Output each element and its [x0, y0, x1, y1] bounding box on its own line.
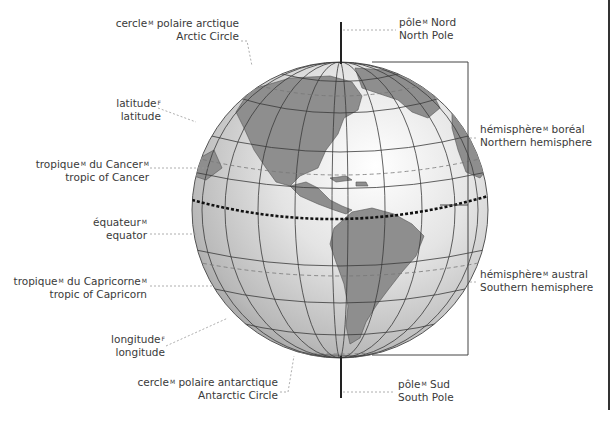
label-fr: hémisphère: [480, 268, 542, 280]
globe-diagram: cercleM polaire arctique Arctic Circle l…: [0, 0, 611, 422]
gender-marker: M: [422, 18, 427, 25]
label-en: Antarctic Circle: [137, 389, 278, 402]
page-border-line: [608, 0, 610, 410]
label-tropic-of-capricorn: tropiqueM du CapricorneM tropic of Capri…: [14, 275, 147, 301]
label-north-pole: pôleM Nord North Pole: [399, 16, 456, 42]
label-fr: cercle: [116, 17, 147, 29]
label-en: Southern hemisphere: [480, 281, 593, 294]
gender-marker: M: [142, 218, 147, 225]
label-southern-hemisphere: hémisphèreM austral Southern hemisphere: [480, 268, 593, 294]
gender-marker: M: [142, 277, 147, 284]
label-en: Arctic Circle: [116, 30, 239, 43]
label-en: equator: [93, 229, 147, 242]
label-fr-rest: Nord: [428, 16, 456, 28]
gender-marker: M: [81, 160, 86, 167]
label-fr-rest: Sud: [427, 378, 450, 390]
label-en: latitude: [116, 110, 161, 123]
label-fr-rest: austral: [548, 268, 588, 280]
label-fr: latitude: [116, 97, 156, 109]
label-antarctic-circle: cercleM polaire antarctique Antarctic Ci…: [137, 376, 278, 402]
label-fr-rest: polaire arctique: [153, 17, 239, 29]
gender-marker: M: [543, 125, 548, 132]
gender-marker: F: [158, 99, 161, 106]
label-fr-mid: du Cancer: [86, 158, 143, 170]
gender-marker: M: [148, 19, 153, 26]
gender-marker: M: [421, 380, 426, 387]
label-fr: hémisphère: [480, 123, 542, 135]
label-fr: longitude: [111, 333, 160, 345]
label-fr: cercle: [137, 376, 168, 388]
label-en: longitude: [111, 346, 165, 359]
gender-marker: M: [59, 277, 64, 284]
label-tropic-of-cancer: tropiqueM du CancerM tropic of Cancer: [36, 158, 149, 184]
label-en: tropic of Capricorn: [14, 288, 147, 301]
label-arctic-circle: cercleM polaire arctique Arctic Circle: [116, 17, 239, 43]
gender-marker: M: [543, 270, 548, 277]
label-fr-rest: boréal: [548, 123, 584, 135]
label-en: South Pole: [398, 391, 454, 404]
label-south-pole: pôleM Sud South Pole: [398, 378, 454, 404]
label-equator: équateurM equator: [93, 216, 147, 242]
label-fr: tropique: [14, 275, 58, 287]
label-latitude: latitudeF latitude: [116, 97, 161, 123]
label-fr: pôle: [398, 378, 420, 390]
globe-illustration: [0, 0, 611, 422]
label-northern-hemisphere: hémisphèreM boréal Northern hemisphere: [480, 123, 592, 149]
label-en: tropic of Cancer: [36, 171, 149, 184]
label-fr-mid: du Capricorne: [64, 275, 141, 287]
gender-marker: M: [144, 160, 149, 167]
gender-marker: F: [162, 335, 165, 342]
label-fr: équateur: [93, 216, 141, 228]
label-fr: pôle: [399, 16, 421, 28]
label-fr-rest: polaire antarctique: [175, 376, 278, 388]
label-en: Northern hemisphere: [480, 136, 592, 149]
label-longitude: longitudeF longitude: [111, 333, 165, 359]
gender-marker: M: [170, 378, 175, 385]
label-fr: tropique: [36, 158, 80, 170]
label-en: North Pole: [399, 29, 456, 42]
